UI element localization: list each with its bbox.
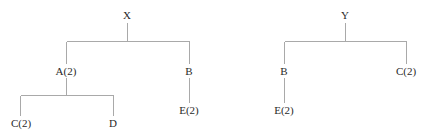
node-x-b: B <box>185 65 192 77</box>
node-x-d: D <box>109 117 117 129</box>
node-x-e: E(2) <box>179 104 199 117</box>
tree-x-edges <box>21 23 190 116</box>
tree-diagram-canvas: X A(2) B C(2) D E(2) Y B C(2) E(2) <box>0 0 424 133</box>
node-y-e: E(2) <box>274 104 294 117</box>
tree-y-edges <box>285 23 407 103</box>
node-y-c: C(2) <box>396 65 417 78</box>
node-y-b: B <box>280 65 287 77</box>
node-x-c: C(2) <box>11 117 32 130</box>
node-y-root: Y <box>341 9 349 21</box>
tree-diagram-svg: X A(2) B C(2) D E(2) Y B C(2) E(2) <box>0 0 424 133</box>
tree-x-nodes: X A(2) B C(2) D E(2) <box>11 9 199 130</box>
node-x-root: X <box>123 9 131 21</box>
node-x-a: A(2) <box>56 65 77 78</box>
